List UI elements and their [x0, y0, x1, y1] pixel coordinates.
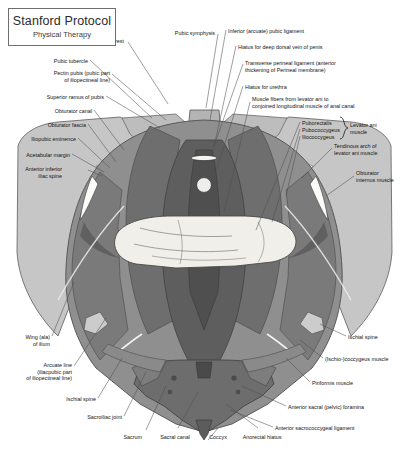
label-tendinous-arch-levator-ani: Tendinous arch of levator ani muscle [334, 143, 377, 156]
label-sacroiliac-joint: Sacroiliac joint [87, 414, 122, 421]
leader-hiatus-deep-dorsal-vein [212, 46, 236, 156]
label-anterior-sacral-foramina: Anterior sacral (pelvic) foramina [288, 404, 364, 411]
leader-pubic-crest [128, 42, 168, 104]
leader-anterior-inferior-iliac-spine [88, 170, 102, 176]
leader-tendinous-arch [302, 148, 332, 178]
leader-sacrum [146, 386, 166, 430]
label-pectin-pubis: Pectin pubis (pubic part of iliopectinea… [54, 70, 110, 83]
title-main: Stanford Protocol [13, 15, 111, 28]
leader-iliococcygeus [286, 136, 300, 196]
levator-ani-brace [338, 116, 350, 140]
leader-sacral-canal [178, 392, 198, 428]
label-obturator-internus-muscle: Obturator internus muscle [356, 170, 394, 183]
label-anterior-sacrococcygeal-ligament: Anterior sacrococcygeal ligament [275, 425, 354, 432]
label-puborectalis: Puborectalis [302, 120, 332, 127]
leader-obturator-internus [326, 176, 354, 196]
label-ischial-spine-right: Ischial spine [348, 334, 378, 341]
label-piriformis-muscle: Piriformis muscle [312, 380, 353, 387]
leader-wing-ala [52, 282, 74, 336]
label-sacrum: Sacrum [123, 434, 142, 441]
label-inferior-arcuate-pubic-ligament: Inferior (arcuate) pubic ligament [228, 28, 304, 35]
label-pubic-symphysis: Pubic symphysis [175, 30, 215, 37]
label-arcuate-line: Arcuate line (iliacpubic part of iliopec… [26, 362, 72, 382]
leader-iliopubic-eminence [78, 138, 110, 168]
label-hiatus-deep-dorsal-vein: Hiatus for deep dorsal vein of penis [238, 44, 323, 51]
title-sub: Physical Therapy [33, 31, 91, 39]
label-hiatus-for-urethra: Hiatus for urethra [245, 84, 287, 91]
label-anterior-inferior-iliac-spine: Anterior inferior iliac spine [25, 166, 62, 179]
label-transverse-perineal-ligament: Transverse perineal ligament (anterior t… [245, 60, 336, 73]
leader-ischio-coccygeus [300, 340, 323, 358]
leader-inferior-arcuate-pubic-ligament [210, 30, 226, 120]
leader-piriformis [286, 358, 310, 382]
diagram-stage: Stanford Protocol Physical Therapy Pubic… [0, 0, 409, 450]
label-anorectal-hiatus: Anorectal hiatus [243, 434, 282, 441]
label-acetabular-margin: Acetabular margin [26, 152, 70, 159]
title-plate: Stanford Protocol Physical Therapy [8, 8, 116, 46]
leader-anterior-sacral-foramina [242, 386, 286, 406]
leader-transverse-perineal-ligament [214, 64, 243, 146]
leader-anorectal-hiatus [226, 404, 258, 428]
leader-ischial-spine-left [98, 358, 122, 398]
label-levator-ani-muscle: Levator ani muscle [350, 122, 377, 135]
leader-obturator-canal [94, 110, 124, 150]
leader-pubococcygeus [272, 129, 300, 222]
label-muscle-fibers-levator-ani: Muscle fibers from levator ani to conjoi… [252, 96, 355, 109]
leader-acetabular-margin [72, 154, 104, 172]
leader-pubic-tubercle [90, 60, 152, 118]
label-ischial-spine-left: Ischial spine [66, 396, 96, 403]
label-pubococcygeus: Pubococcygeus [302, 127, 340, 134]
leader-pectin-pubis [112, 74, 166, 120]
label-sacral-canal: Sacral canal [160, 434, 190, 441]
leader-obturator-fascia [88, 124, 116, 162]
leader-anterior-sacrococcygeal-ligament [230, 410, 273, 427]
leader-superior-ramus [106, 96, 160, 128]
leader-pubic-symphysis [206, 34, 218, 108]
leader-muscle-fibers-levator-ani [224, 102, 250, 212]
label-obturator-fascia: Obturator fascia [48, 122, 86, 129]
leader-puborectalis [256, 122, 300, 230]
label-superior-ramus-of-pubis: Superior ramus of pubis [47, 94, 104, 101]
label-ischio-coccygeus-muscle: (Ischio-)coccygeus muscle [325, 356, 389, 363]
label-pubic-tubercle: Pubic tubercle [54, 58, 88, 65]
leader-arcuate-line [74, 318, 106, 366]
label-obturator-canal: Obturator canal [55, 108, 92, 115]
leader-ischial-spine-right [320, 324, 346, 336]
label-coccyx: Coccyx [209, 434, 227, 441]
label-wing-ala-of-ilium: Wing (ala) of ilium [25, 334, 50, 347]
leader-sacroiliac-joint [124, 372, 146, 416]
label-iliopubic-eminence: Iliopubic eminence [31, 136, 76, 143]
label-iliococcygeus: Iliococcygeus [302, 134, 334, 141]
